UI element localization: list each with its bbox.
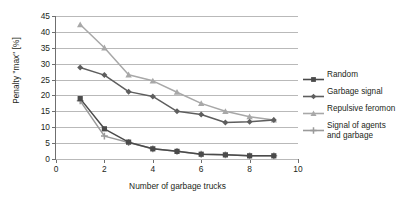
x-axis-title: Number of garbage trucks	[56, 181, 299, 191]
legend-marker-triangle-icon	[303, 109, 324, 117]
legend-label: Repulsive feromon	[327, 104, 416, 114]
legend-label: Garbage signal	[327, 87, 416, 97]
data-point	[271, 153, 276, 158]
chart-figure: Penalty "max" [%] 051015202530354045 024…	[0, 0, 416, 202]
data-point	[199, 152, 204, 157]
legend-marker-cross-icon	[303, 126, 324, 134]
legend-marker-square-icon	[303, 75, 324, 83]
data-point	[78, 96, 83, 101]
data-point	[77, 21, 83, 27]
series-line	[80, 25, 274, 120]
data-point	[223, 152, 228, 157]
data-point	[102, 126, 107, 131]
data-point	[222, 119, 228, 125]
legend-label: Signal of agents and garbage	[327, 121, 416, 140]
data-point	[247, 119, 253, 125]
series-repulsive-feromon	[77, 21, 277, 122]
legend-item[interactable]: Signal of agents and garbage	[303, 121, 416, 140]
legend-marker-diamond-icon	[303, 92, 324, 100]
data-point	[77, 64, 83, 70]
data-point	[126, 140, 131, 145]
data-point	[198, 112, 204, 118]
data-point	[174, 149, 179, 154]
chart-legend: RandomGarbage signalRepulsive feromonSig…	[303, 70, 416, 143]
data-point	[150, 146, 155, 151]
legend-item[interactable]: Repulsive feromon	[303, 104, 416, 118]
legend-item[interactable]: Random	[303, 70, 416, 84]
series-line	[80, 99, 274, 156]
legend-item[interactable]: Garbage signal	[303, 87, 416, 101]
data-point	[247, 153, 252, 158]
series-random	[78, 96, 277, 158]
legend-label: Random	[327, 70, 416, 80]
